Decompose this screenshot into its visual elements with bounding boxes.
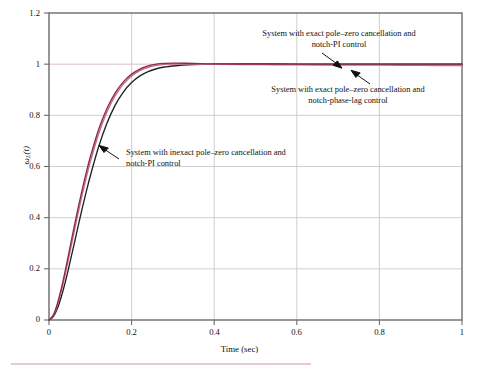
y-tick-label-1: 0.2 [16, 263, 40, 273]
annotation-inexact-pole-zero-notch-pi: System with inexact pole–zero cancellati… [126, 148, 342, 169]
annotation-exact-pole-zero-notch-pi: System with exact pole–zero cancellation… [228, 29, 450, 50]
y-tick-label-2: 0.4 [16, 212, 40, 222]
annotation-exact-lag-line1: System with exact pole–zero cancellation… [271, 85, 424, 94]
x-tick-label-2: 0.4 [200, 327, 229, 337]
x-tick-label-3: 0.6 [282, 327, 311, 337]
annotation-inexact-pi-line2: notch-PI control [126, 159, 181, 168]
annotation-exact-pi-line2: notch-PI control [312, 40, 367, 49]
x-tick-label-4: 0.8 [365, 327, 394, 337]
x-tick-label-5: 1 [452, 327, 472, 337]
x-axis-title: Time (sec) [0, 344, 479, 354]
y-axis-title-argument: (t) [21, 146, 31, 155]
x-tick-label-0: 0 [39, 327, 59, 337]
annotation-inexact-pi-line1: System with inexact pole–zero cancellati… [126, 148, 286, 157]
y-axis-ticks [44, 13, 49, 320]
annotation-exact-lag-line2: notch-phase-lag control [308, 96, 387, 105]
annotation-exact-pi-line1: System with exact pole–zero cancellation… [262, 29, 415, 38]
y-tick-label-0: 0 [16, 314, 40, 324]
y-tick-label-4: 0.8 [16, 110, 40, 120]
x-axis-ticks [49, 320, 462, 325]
annotation-exact-pole-zero-notch-phase-lag: System with exact pole–zero cancellation… [228, 85, 468, 106]
y-tick-label-5: 1 [16, 59, 40, 69]
chart-plot-area [0, 0, 479, 374]
y-axis-title: ωL(t) [21, 135, 31, 175]
y-axis-title-subscript: L [24, 155, 31, 159]
figure-container: System with exact pole–zero cancellation… [0, 0, 479, 374]
bottom-decorative-rule [11, 363, 311, 365]
y-tick-label-6: 1.2 [16, 8, 40, 18]
y-axis-title-omega: ω [21, 158, 31, 164]
x-tick-label-1: 0.2 [117, 327, 146, 337]
